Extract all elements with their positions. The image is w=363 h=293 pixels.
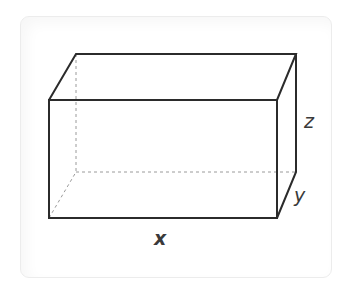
label-x: x [153, 227, 167, 249]
hidden-edges [49, 54, 296, 218]
front-face [49, 100, 277, 218]
label-z: z [303, 110, 315, 132]
rectangular-prism-diagram: z y x [0, 0, 363, 293]
visible-edges [49, 54, 296, 218]
top-face-edges [49, 54, 296, 100]
label-y: y [293, 184, 306, 206]
hidden-edge-depth [49, 172, 76, 218]
